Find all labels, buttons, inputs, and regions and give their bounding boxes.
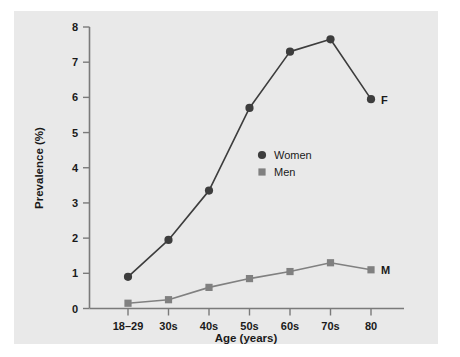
legend-label: Men bbox=[274, 166, 295, 178]
series-men bbox=[124, 259, 374, 307]
data-point bbox=[124, 300, 131, 307]
data-point bbox=[367, 266, 374, 273]
y-tick-label: 3 bbox=[72, 197, 78, 209]
x-tick-label: 50s bbox=[240, 320, 258, 332]
y-tick-label: 5 bbox=[72, 127, 78, 139]
prevalence-by-age-line-chart: 012345678 Prevalence (%) 18–2930s40s50s6… bbox=[0, 0, 460, 357]
series-end-label-men: M bbox=[381, 264, 390, 276]
x-tick-label: 18–29 bbox=[113, 320, 144, 332]
data-point bbox=[326, 35, 334, 43]
y-tick-label: 7 bbox=[72, 56, 78, 68]
data-point bbox=[327, 259, 334, 266]
y-tick-label: 0 bbox=[72, 303, 78, 315]
data-point bbox=[124, 273, 132, 281]
data-point bbox=[165, 296, 172, 303]
y-tick-label: 1 bbox=[72, 267, 78, 279]
chart-legend: WomenMen bbox=[258, 149, 312, 178]
series-end-label-women: F bbox=[381, 94, 388, 106]
y-axis-tick-labels: 012345678 bbox=[72, 21, 79, 315]
data-point bbox=[367, 95, 375, 103]
x-axis-tick-labels: 18–2930s40s50s60s70s80 bbox=[113, 320, 377, 332]
x-tick-label: 30s bbox=[159, 320, 177, 332]
y-tick-label: 8 bbox=[72, 21, 78, 33]
x-axis-ticks bbox=[128, 309, 371, 316]
data-point bbox=[286, 48, 294, 56]
x-axis: 18–2930s40s50s60s70s80 Age (years) bbox=[90, 309, 405, 345]
y-tick-label: 6 bbox=[72, 91, 78, 103]
legend-item-men: Men bbox=[258, 166, 295, 178]
legend-marker-circle-icon bbox=[258, 151, 266, 159]
legend-marker-square-icon bbox=[258, 168, 265, 175]
y-axis-ticks bbox=[83, 27, 90, 309]
data-point bbox=[164, 236, 172, 244]
legend-item-women: Women bbox=[258, 149, 312, 161]
data-point bbox=[246, 275, 253, 282]
x-tick-label: 80 bbox=[365, 320, 377, 332]
x-tick-label: 40s bbox=[200, 320, 218, 332]
y-tick-label: 2 bbox=[72, 232, 78, 244]
x-axis-title: Age (years) bbox=[215, 332, 278, 344]
data-point bbox=[205, 284, 212, 291]
data-point bbox=[245, 104, 253, 112]
y-tick-label: 4 bbox=[72, 162, 79, 174]
series-women bbox=[124, 35, 375, 281]
x-tick-label: 70s bbox=[321, 320, 339, 332]
data-series-layer bbox=[124, 35, 375, 307]
data-point bbox=[286, 268, 293, 275]
x-tick-label: 60s bbox=[281, 320, 299, 332]
series-line bbox=[128, 263, 371, 303]
data-point bbox=[205, 187, 213, 195]
series-line bbox=[128, 39, 371, 277]
series-end-annotations: FM bbox=[381, 94, 390, 277]
legend-label: Women bbox=[274, 149, 312, 161]
chart-figure: 012345678 Prevalence (%) 18–2930s40s50s6… bbox=[0, 0, 460, 357]
y-axis: 012345678 Prevalence (%) bbox=[33, 21, 90, 315]
y-axis-title: Prevalence (%) bbox=[33, 127, 45, 209]
